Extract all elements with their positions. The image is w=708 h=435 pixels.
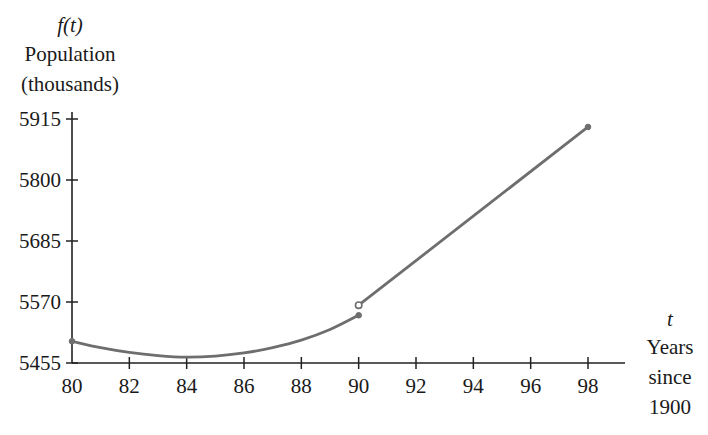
x-tick-label: 82	[119, 374, 140, 398]
data-series	[69, 124, 591, 357]
x-axis-label-line-1: Years	[630, 332, 708, 362]
x-tick-label: 80	[62, 374, 83, 398]
x-axis-label-line-2: since	[630, 362, 708, 392]
x-tick-label: 94	[463, 374, 485, 398]
open-endpoint-marker	[355, 302, 361, 308]
y-tick-label: 5915	[19, 107, 61, 131]
y-axis-label-line-2: (thousands)	[10, 69, 130, 99]
x-tick-label: 88	[291, 374, 312, 398]
y-tick-label: 5570	[19, 290, 61, 314]
y-axis-label-line-1: Population	[10, 39, 130, 69]
y-tick-label: 5455	[19, 351, 61, 375]
closed-endpoint-marker	[585, 124, 591, 130]
x-axis-variable-label: t	[640, 304, 700, 334]
x-tick-label: 92	[406, 374, 427, 398]
closed-endpoint-marker	[69, 338, 75, 344]
x-tick-label: 84	[176, 374, 198, 398]
y-axis-function-label: f(t)	[40, 10, 100, 40]
series-line-1	[72, 315, 359, 357]
closed-endpoint-marker	[356, 312, 362, 318]
y-tick-label: 5800	[19, 168, 61, 192]
axes	[72, 112, 625, 363]
x-tick-label: 90	[348, 374, 369, 398]
y-tick-label: 5685	[19, 229, 61, 253]
x-tick-label: 98	[578, 374, 599, 398]
y-ticks: 54555570568558005915	[19, 107, 78, 375]
x-tick-label: 86	[234, 374, 255, 398]
series-line-2	[359, 127, 588, 305]
x-axis-label-line-3: 1900	[630, 392, 708, 422]
x-tick-label: 96	[520, 374, 541, 398]
